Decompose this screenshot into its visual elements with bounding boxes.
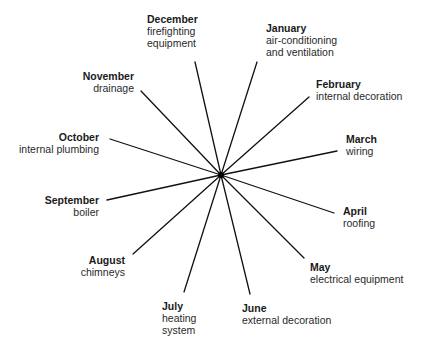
month-name: December — [147, 13, 198, 25]
month-name: August — [81, 254, 125, 266]
task-text: electrical equipment — [310, 273, 403, 285]
task-text: air-conditioning — [266, 34, 337, 46]
spoke-september — [107, 175, 221, 200]
spoke-april — [221, 175, 334, 213]
label-september: September boiler — [45, 194, 99, 218]
label-april: April roofing — [343, 205, 375, 229]
month-name: February — [316, 78, 402, 90]
spoke-july — [184, 175, 221, 292]
task-text: and ventilation — [266, 46, 337, 58]
task-text: boiler — [45, 206, 99, 218]
month-name: May — [310, 261, 403, 273]
task-text: system — [162, 324, 196, 336]
month-name: November — [83, 70, 134, 82]
month-name: June — [242, 302, 331, 314]
month-name: March — [346, 133, 377, 145]
month-name: July — [162, 300, 196, 312]
center-hub — [218, 172, 224, 178]
task-text: chimneys — [81, 266, 125, 278]
month-name: January — [266, 22, 337, 34]
spoke-may — [221, 175, 304, 258]
spoke-august — [133, 175, 221, 254]
task-text: wiring — [346, 145, 377, 157]
label-march: March wiring — [346, 133, 377, 157]
spoke-january — [221, 62, 257, 175]
month-name: September — [45, 194, 99, 206]
spoke-february — [221, 97, 309, 175]
spoke-diagram — [0, 0, 427, 353]
label-june: June external decoration — [242, 302, 331, 326]
spoke-lines — [107, 62, 337, 294]
task-text: roofing — [343, 217, 375, 229]
task-text: external decoration — [242, 314, 331, 326]
task-text: internal plumbing — [19, 143, 99, 155]
label-october: October internal plumbing — [19, 131, 99, 155]
task-text: internal decoration — [316, 90, 402, 102]
task-text: drainage — [83, 82, 134, 94]
task-text: firefighting — [147, 25, 198, 37]
label-july: July heating system — [162, 300, 196, 336]
spoke-june — [221, 175, 250, 294]
month-name: October — [19, 131, 99, 143]
label-december: December firefighting equipment — [147, 13, 198, 49]
task-text: heating — [162, 312, 196, 324]
label-august: August chimneys — [81, 254, 125, 278]
label-january: January air-conditioning and ventilation — [266, 22, 337, 58]
spoke-december — [195, 62, 221, 175]
label-november: November drainage — [83, 70, 134, 94]
spoke-march — [221, 151, 337, 175]
label-february: February internal decoration — [316, 78, 402, 102]
task-text: equipment — [147, 37, 198, 49]
month-name: April — [343, 205, 375, 217]
label-may: May electrical equipment — [310, 261, 403, 285]
